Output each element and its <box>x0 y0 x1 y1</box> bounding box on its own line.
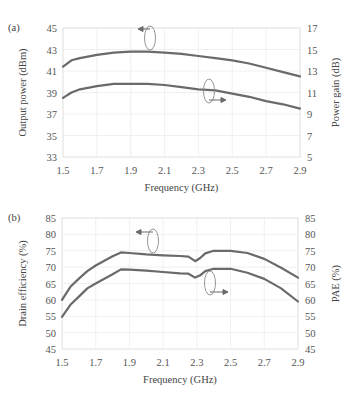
svg-text:5: 5 <box>307 152 312 163</box>
series-pae <box>62 269 298 317</box>
svg-text:80: 80 <box>46 229 57 240</box>
svg-text:1.9: 1.9 <box>123 357 136 368</box>
svg-text:80: 80 <box>305 229 316 240</box>
svg-text:45: 45 <box>47 23 58 34</box>
chart-a-output-power-gain: 1.51.71.92.12.32.52.72.93335373941434557… <box>8 22 342 194</box>
svg-text:41: 41 <box>47 66 58 77</box>
svg-text:85: 85 <box>46 213 57 224</box>
svg-text:45: 45 <box>46 344 57 355</box>
svg-text:43: 43 <box>47 45 58 56</box>
svg-text:39: 39 <box>47 88 58 99</box>
svg-text:2.9: 2.9 <box>291 357 304 368</box>
svg-text:65: 65 <box>46 279 57 290</box>
svg-text:1.7: 1.7 <box>89 357 102 368</box>
series-output-power <box>63 52 300 77</box>
svg-text:1.5: 1.5 <box>55 357 68 368</box>
svg-text:35: 35 <box>47 131 58 142</box>
series-drain-efficiency <box>62 251 298 300</box>
chart-b-efficiency-pae: 1.51.71.92.12.32.52.72.94550556065707580… <box>8 212 342 386</box>
y2-tick-labels: 455055606570758085 <box>305 213 316 355</box>
y2-tick-labels: 57911131517 <box>307 23 318 163</box>
svg-text:1.9: 1.9 <box>124 165 137 176</box>
x-axis-label: Frequency (GHz) <box>143 374 217 386</box>
svg-text:1.5: 1.5 <box>56 165 69 176</box>
svg-text:50: 50 <box>46 328 57 339</box>
svg-text:11: 11 <box>307 88 317 99</box>
x-tick-labels: 1.51.71.92.12.32.52.72.9 <box>56 165 306 176</box>
left-axis-indicator <box>136 229 159 253</box>
svg-text:2.3: 2.3 <box>190 357 203 368</box>
svg-text:2.7: 2.7 <box>260 165 273 176</box>
svg-text:55: 55 <box>46 311 57 322</box>
svg-text:60: 60 <box>46 295 57 306</box>
svg-text:2.1: 2.1 <box>158 165 171 176</box>
svg-text:70: 70 <box>46 262 57 273</box>
svg-text:65: 65 <box>305 279 316 290</box>
svg-text:75: 75 <box>46 246 57 257</box>
panel-label: (a) <box>8 22 20 34</box>
svg-text:2.5: 2.5 <box>224 357 237 368</box>
grid <box>63 28 300 157</box>
svg-text:2.3: 2.3 <box>192 165 205 176</box>
figure: 1.51.71.92.12.32.52.72.93335373941434557… <box>0 0 361 402</box>
series-power-gain <box>63 84 300 109</box>
svg-text:37: 37 <box>47 109 58 120</box>
svg-text:2.9: 2.9 <box>293 165 306 176</box>
svg-text:7: 7 <box>307 131 312 142</box>
svg-text:2.7: 2.7 <box>258 357 271 368</box>
svg-text:15: 15 <box>307 45 318 56</box>
svg-text:45: 45 <box>305 344 316 355</box>
left-axis-indicator <box>138 26 156 50</box>
x-axis-label: Frequency (GHz) <box>145 182 219 194</box>
y-axis-label: Output power (dBm) <box>17 48 29 137</box>
svg-text:17: 17 <box>307 23 318 34</box>
panel-label: (b) <box>8 212 21 224</box>
svg-text:13: 13 <box>307 66 318 77</box>
svg-text:2.5: 2.5 <box>226 165 239 176</box>
svg-text:60: 60 <box>305 295 316 306</box>
y2-axis-label: Power gain (dB) <box>330 57 342 127</box>
right-axis-indicator <box>205 271 229 295</box>
svg-text:2.1: 2.1 <box>157 357 170 368</box>
svg-text:1.7: 1.7 <box>90 165 103 176</box>
y2-axis-label: PAE (%) <box>330 264 342 302</box>
y-tick-labels: 455055606570758085 <box>46 213 57 355</box>
svg-text:33: 33 <box>47 152 58 163</box>
svg-text:85: 85 <box>305 213 316 224</box>
svg-text:75: 75 <box>305 246 316 257</box>
y-axis-label: Drain efficiency (%) <box>17 240 29 327</box>
svg-text:70: 70 <box>305 262 316 273</box>
svg-text:50: 50 <box>305 328 316 339</box>
svg-text:55: 55 <box>305 311 316 322</box>
svg-text:9: 9 <box>307 109 312 120</box>
x-tick-labels: 1.51.71.92.12.32.52.72.9 <box>55 357 304 368</box>
y-tick-labels: 33353739414345 <box>47 23 58 163</box>
